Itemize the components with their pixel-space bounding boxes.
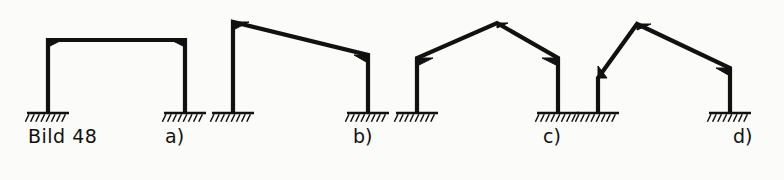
support-hatch — [62, 114, 66, 122]
support-a-right — [162, 113, 206, 122]
frame-d — [598, 24, 730, 113]
support-hatch — [415, 114, 419, 122]
frames-layer — [48, 22, 730, 113]
support-hatch — [596, 114, 600, 122]
support-hatch — [410, 114, 414, 122]
frame-members-b — [233, 22, 368, 113]
support-hatch — [51, 114, 55, 122]
support-b-right — [345, 113, 389, 122]
support-hatch — [236, 114, 240, 122]
support-hatch — [173, 114, 177, 122]
support-hatch — [345, 114, 349, 122]
support-hatch — [216, 114, 220, 122]
support-hatch — [556, 114, 560, 122]
support-hatch — [572, 114, 576, 122]
support-hatch — [356, 114, 360, 122]
support-hatch — [713, 114, 717, 122]
support-hatch — [221, 114, 225, 122]
support-hatch — [242, 114, 246, 122]
support-hatch — [183, 114, 187, 122]
supports-layer — [25, 113, 751, 122]
support-hatch — [394, 114, 398, 122]
frame-a — [48, 40, 185, 113]
support-hatch — [723, 114, 727, 122]
support-hatch — [546, 114, 550, 122]
support-hatch — [351, 114, 355, 122]
support-hatch — [366, 114, 370, 122]
support-hatch — [405, 114, 409, 122]
support-hatch — [561, 114, 565, 122]
support-hatch — [551, 114, 555, 122]
support-d-left — [575, 113, 619, 122]
support-hatch — [426, 114, 430, 122]
support-hatch — [31, 114, 35, 122]
support-hatch — [601, 114, 605, 122]
support-hatch — [194, 114, 198, 122]
figure-bild-48: Bild 48 a)b)c)d) — [0, 0, 784, 180]
support-hatch — [57, 114, 61, 122]
haunch-c-left-eaves — [417, 58, 433, 66]
support-hatch — [231, 114, 235, 122]
support-hatch — [541, 114, 545, 122]
support-b-left — [210, 113, 254, 122]
support-hatch — [41, 114, 45, 122]
support-hatch — [612, 114, 616, 122]
support-hatch — [46, 114, 50, 122]
support-hatch — [567, 114, 571, 122]
support-hatch — [728, 114, 732, 122]
support-hatch — [591, 114, 595, 122]
support-hatch — [226, 114, 230, 122]
support-hatch — [535, 114, 539, 122]
support-hatch — [210, 114, 214, 122]
support-hatch — [400, 114, 404, 122]
support-hatch — [361, 114, 365, 122]
frame-members-c — [417, 23, 558, 113]
haunch-a-right-eaves — [171, 40, 185, 47]
support-hatch — [168, 114, 172, 122]
frame-members-a — [48, 40, 185, 113]
support-hatch — [718, 114, 722, 122]
support-d-right — [707, 113, 751, 122]
haunch-a-left-eaves — [48, 40, 62, 47]
frame-c — [417, 23, 558, 113]
haunch-c-right-eaves — [542, 58, 558, 66]
support-hatch — [586, 114, 590, 122]
support-hatch — [247, 114, 251, 122]
haunch-b-right-eaves — [354, 55, 368, 63]
support-hatch — [382, 114, 386, 122]
support-hatch — [162, 114, 166, 122]
support-a-left — [25, 113, 69, 122]
haunch-d-right-eaves — [716, 68, 730, 76]
support-hatch — [25, 114, 29, 122]
support-c-left — [394, 113, 438, 122]
support-hatch — [733, 114, 737, 122]
support-hatch — [431, 114, 435, 122]
support-hatch — [607, 114, 611, 122]
support-hatch — [371, 114, 375, 122]
support-hatch — [178, 114, 182, 122]
frame-b — [233, 22, 368, 113]
support-hatch — [377, 114, 381, 122]
support-hatch — [581, 114, 585, 122]
support-hatch — [707, 114, 711, 122]
support-hatch — [420, 114, 424, 122]
support-c-right — [535, 113, 579, 122]
portal-frame-diagram — [0, 0, 784, 180]
support-hatch — [36, 114, 40, 122]
frame-members-d — [598, 24, 730, 113]
support-hatch — [744, 114, 748, 122]
support-hatch — [199, 114, 203, 122]
support-hatch — [188, 114, 192, 122]
support-hatch — [575, 114, 579, 122]
support-hatch — [739, 114, 743, 122]
